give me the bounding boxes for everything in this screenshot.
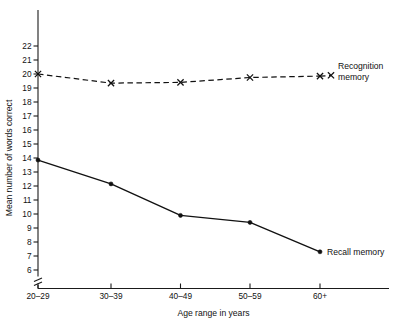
y-tick-label: 22: [22, 41, 32, 51]
line-chart: 22212019181716151413121110987620–2930–39…: [0, 0, 404, 324]
data-point-marker: [318, 250, 322, 254]
recognition-memory-label-line2: memory: [338, 72, 370, 82]
y-axis-title: Mean number of words correct: [4, 99, 14, 216]
y-tick-label: 11: [23, 195, 32, 205]
y-tick-label: 20: [22, 69, 32, 79]
y-tick-label: 9: [27, 223, 32, 233]
recall-memory-label: Recall memory: [327, 247, 385, 257]
y-tick-label: 19: [22, 83, 32, 93]
data-point-marker: [179, 213, 183, 217]
y-tick-label: 10: [22, 209, 32, 219]
x-axis-title: Age range in years: [177, 308, 249, 318]
series-line-2: [38, 160, 320, 252]
y-tick-label: 12: [22, 181, 32, 191]
recognition-label-leader: [320, 76, 331, 77]
x-tick-label: 30–39: [99, 291, 122, 301]
y-tick-label: 13: [22, 167, 32, 177]
y-tick-label: 16: [22, 125, 32, 135]
data-point-marker: [248, 220, 252, 224]
y-tick-label: 21: [22, 55, 32, 65]
x-tick-label: 60+: [313, 291, 327, 301]
data-point-marker: [109, 182, 113, 186]
x-tick-label: 50–59: [238, 291, 261, 301]
y-tick-label: 17: [22, 111, 32, 121]
recognition-memory-label-line1: Recognition: [338, 61, 384, 71]
data-point-marker: [36, 158, 40, 162]
x-tick-label: 20–29: [26, 291, 49, 301]
y-tick-label: 18: [22, 97, 32, 107]
y-tick-label: 8: [27, 237, 32, 247]
chart-figure: 22212019181716151413121110987620–2930–39…: [0, 0, 404, 324]
y-tick-label: 7: [27, 251, 32, 261]
y-tick-label: 14: [22, 153, 32, 163]
y-tick-label: 6: [27, 265, 32, 275]
x-tick-label: 40–49: [169, 291, 192, 301]
y-tick-label: 15: [22, 139, 32, 149]
axis-break-mark-upper: [34, 278, 42, 282]
